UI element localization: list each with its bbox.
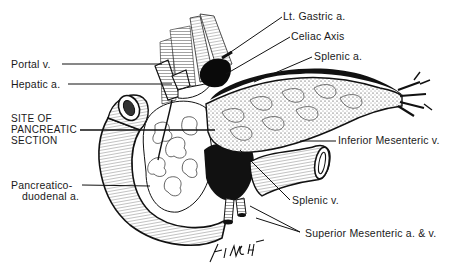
label-site-line-1: SITE OF	[11, 114, 52, 125]
label-hepatic-artery: Hepatic a.	[11, 79, 60, 90]
superior-mesenteric-vessels	[223, 198, 246, 225]
artist-signature	[210, 240, 264, 262]
label-superior-mesenteric-vessels: Superior Mesenteric a. & v.	[305, 228, 436, 239]
label-inferior-mesenteric-vein: Inferior Mesenteric v.	[338, 135, 440, 146]
label-splenic-artery: Splenic a.	[314, 51, 362, 62]
label-celiac-axis: Celiac Axis	[291, 31, 345, 42]
label-site-line-2: PANCREATIC	[11, 125, 77, 136]
label-site-line-3: SECTION	[11, 136, 58, 147]
label-pancreaticoduodenal-line-2: duodenal a.	[22, 191, 79, 202]
colon-segment	[250, 145, 332, 196]
label-splenic-vein: Splenic v.	[292, 195, 339, 206]
label-portal-vein: Portal v.	[11, 59, 51, 70]
label-left-gastric-artery: Lt. Gastric a.	[283, 11, 345, 22]
anatomy-figure: Portal v. Hepatic a. SITE OF PANCREATIC …	[0, 0, 458, 272]
splenic-hilum-vessels	[398, 72, 432, 116]
pancreatic-head	[143, 101, 212, 212]
